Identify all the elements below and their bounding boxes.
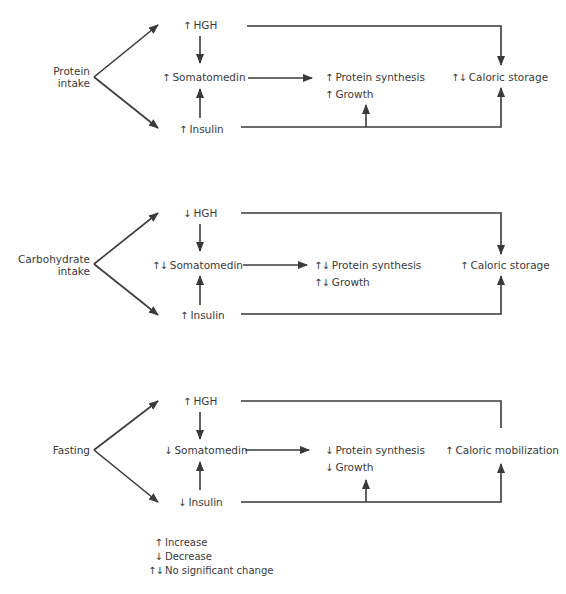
indicator-icon: ↓ xyxy=(183,208,190,220)
caloric-node: ↑Caloric storage xyxy=(460,259,550,272)
growth-node: ↑Growth xyxy=(325,88,373,101)
legend-item-increase: ↑Increase xyxy=(148,536,273,550)
node-label: HGH xyxy=(193,19,217,31)
node-label: Insulin xyxy=(189,123,223,135)
input-fasting: Fasting xyxy=(40,444,90,456)
growth-node: ↑↓Growth xyxy=(314,276,370,289)
node-label: Growth xyxy=(332,276,370,288)
indicator-icon: ↓ xyxy=(178,497,185,509)
node-label: HGH xyxy=(193,207,217,219)
indicator-icon: ↑ xyxy=(162,72,169,84)
decrease-arrow-icon: ↓ xyxy=(148,550,162,564)
indicator-icon: ↓ xyxy=(325,445,332,457)
legend-item-no-change: ↑↓No significant change xyxy=(148,564,273,578)
node-label: Insulin xyxy=(190,309,224,321)
protein-synthesis-node: ↑↓Protein synthesis xyxy=(314,259,421,272)
node-label: Caloric mobilization xyxy=(455,444,559,456)
input-line2: intake xyxy=(40,77,90,89)
node-label: Caloric storage xyxy=(469,71,548,83)
somatomedin-node: ↑↓Somatomedin xyxy=(152,259,243,272)
indicator-icon: ↑ xyxy=(460,260,467,272)
node-label: Somatomedin xyxy=(170,259,243,271)
node-label: Somatomedin xyxy=(174,444,247,456)
indicator-icon: ↑↓ xyxy=(314,260,329,272)
input-line1: Fasting xyxy=(40,444,90,456)
increase-arrow-icon: ↑ xyxy=(148,536,162,550)
growth-node: ↓Growth xyxy=(325,461,373,474)
indicator-icon: ↑ xyxy=(179,124,186,136)
panel-3-arrows xyxy=(94,401,501,502)
protein-synthesis-node: ↓Protein synthesis xyxy=(325,444,425,457)
caloric-node: ↑↓Caloric storage xyxy=(451,71,548,84)
indicator-icon: ↑ xyxy=(183,20,190,32)
legend: ↑Increase ↓Decrease ↑↓No significant cha… xyxy=(148,536,273,578)
indicator-icon: ↓ xyxy=(164,445,171,457)
node-label: Somatomedin xyxy=(172,71,245,83)
node-label: HGH xyxy=(193,395,217,407)
somatomedin-node: ↑Somatomedin xyxy=(162,71,246,84)
input-protein-intake: Protein intake xyxy=(40,65,90,89)
legend-label: Increase xyxy=(165,537,207,548)
node-label: Growth xyxy=(335,88,373,100)
somatomedin-node: ↓Somatomedin xyxy=(164,444,248,457)
hgh-node: ↑HGH xyxy=(183,19,217,32)
no-change-arrows-icon: ↑↓ xyxy=(148,564,162,578)
indicator-icon: ↓ xyxy=(325,462,332,474)
protein-synthesis-node: ↑Protein synthesis xyxy=(325,71,425,84)
hgh-node: ↑HGH xyxy=(183,395,217,408)
indicator-icon: ↑↓ xyxy=(314,277,329,289)
node-label: Protein synthesis xyxy=(335,444,425,456)
diagram-arrows xyxy=(0,0,566,594)
indicator-icon: ↑ xyxy=(183,396,190,408)
caloric-node: ↑Caloric mobilization xyxy=(445,444,559,457)
node-label: Growth xyxy=(335,461,373,473)
input-line1: Carbohydrate xyxy=(10,253,90,265)
input-line2: intake xyxy=(10,265,90,277)
indicator-icon: ↑ xyxy=(180,310,187,322)
node-label: Protein synthesis xyxy=(335,71,425,83)
input-carbohydrate-intake: Carbohydrate intake xyxy=(10,253,90,277)
insulin-node: ↓Insulin xyxy=(178,496,223,509)
indicator-icon: ↑ xyxy=(325,72,332,84)
legend-label: No significant change xyxy=(165,565,273,576)
panel-1-arrows xyxy=(94,25,501,128)
indicator-icon: ↑↓ xyxy=(152,260,167,272)
insulin-node: ↑Insulin xyxy=(180,309,225,322)
insulin-node: ↑Insulin xyxy=(179,123,224,136)
hgh-node: ↓HGH xyxy=(183,207,217,220)
node-label: Protein synthesis xyxy=(332,259,422,271)
indicator-icon: ↑↓ xyxy=(451,72,466,84)
node-label: Caloric storage xyxy=(470,259,549,271)
node-label: Insulin xyxy=(188,496,222,508)
input-line1: Protein xyxy=(40,65,90,77)
legend-item-decrease: ↓Decrease xyxy=(148,550,273,564)
legend-label: Decrease xyxy=(165,551,212,562)
indicator-icon: ↑ xyxy=(445,445,452,457)
indicator-icon: ↑ xyxy=(325,89,332,101)
